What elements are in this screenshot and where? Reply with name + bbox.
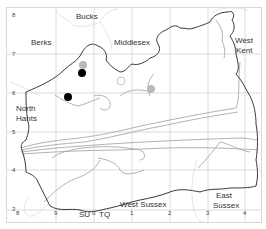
distribution-map: 8 7 6 5 4 3 8 9 0 1 2 3 4 SU TQ Bucks Be… xyxy=(0,0,266,229)
x-tick: 9 xyxy=(54,210,57,216)
x-tick: 1 xyxy=(130,210,133,216)
y-tick: 8 xyxy=(12,12,15,18)
county-label-west-kent-1: West xyxy=(235,36,253,45)
grid-square-su: SU xyxy=(79,210,90,219)
x-tick: 0 xyxy=(92,210,95,216)
county-label-east-sussex-2: Sussex xyxy=(213,201,239,210)
county-label-bucks: Bucks xyxy=(76,12,98,21)
y-tick: 4 xyxy=(12,167,15,173)
county-label-berks: Berks xyxy=(31,38,51,47)
county-label-west-sussex: West Sussex xyxy=(120,200,167,209)
county-label-north-hants-2: Hants xyxy=(16,114,37,123)
county-label-east-sussex-1: East xyxy=(216,191,232,200)
y-tick: 7 xyxy=(12,51,15,57)
x-tick: 8 xyxy=(16,210,19,216)
x-tick: 4 xyxy=(243,210,246,216)
x-tick: 2 xyxy=(168,210,171,216)
record-dot-open xyxy=(117,77,125,85)
x-tick: 3 xyxy=(206,210,209,216)
county-label-middlesex: Middlesex xyxy=(114,38,150,47)
county-label-west-kent-2: Kent xyxy=(236,46,252,55)
record-dot-grey xyxy=(147,85,155,93)
y-tick: 3 xyxy=(12,206,15,212)
record-dot-black xyxy=(64,93,72,101)
grid-square-tq: TQ xyxy=(99,210,110,219)
record-dot-grey xyxy=(79,61,87,69)
record-dot-black xyxy=(78,69,86,77)
county-label-north-hants-1: North xyxy=(16,104,36,113)
y-tick: 5 xyxy=(12,129,15,135)
y-tick: 6 xyxy=(12,90,15,96)
